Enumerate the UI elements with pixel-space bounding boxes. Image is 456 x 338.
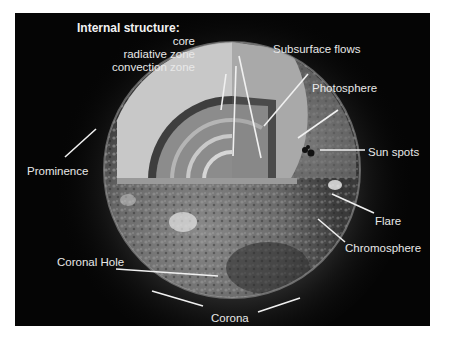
label-prominence: Prominence: [27, 165, 88, 177]
sun-diagram-panel: Internal structure: core radiative zone …: [15, 13, 430, 326]
label-corona: Corona: [211, 312, 249, 324]
label-flare: Flare: [375, 215, 401, 227]
label-coronal-hole: Coronal Hole: [57, 256, 124, 268]
label-radiative-zone: radiative zone: [123, 48, 195, 60]
label-subsurface-flows: Subsurface flows: [273, 43, 361, 55]
internal-structure-title: Internal structure:: [77, 22, 180, 34]
label-core: core: [173, 35, 195, 47]
label-chromosphere: Chromosphere: [345, 242, 421, 254]
label-sun-spots: Sun spots: [368, 146, 419, 158]
label-photosphere: Photosphere: [312, 82, 377, 94]
label-convection-zone: convection zone: [112, 61, 195, 73]
